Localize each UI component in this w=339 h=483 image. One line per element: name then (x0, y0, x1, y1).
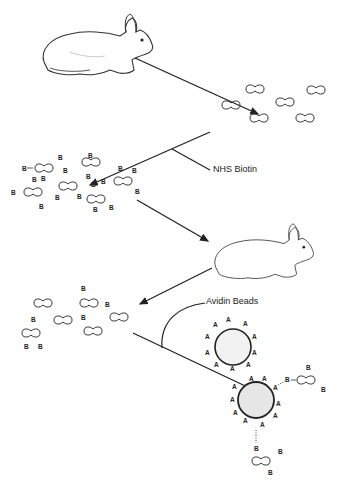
svg-text:A: A (230, 396, 235, 403)
svg-text:A: A (246, 361, 251, 368)
svg-text:A: A (232, 383, 237, 390)
svg-text:B: B (321, 386, 326, 393)
svg-text:B: B (81, 314, 86, 321)
svg-text:B: B (55, 194, 60, 201)
svg-text:B: B (81, 285, 86, 292)
avidin-beads-label: Avidin Beads (206, 296, 258, 306)
svg-text:B: B (88, 152, 93, 159)
svg-text:B: B (254, 445, 259, 452)
svg-text:A: A (230, 365, 235, 372)
svg-text:A: A (252, 349, 257, 356)
svg-text:A: A (214, 361, 219, 368)
svg-text:B: B (31, 316, 36, 323)
svg-text:A: A (243, 417, 248, 424)
nhs-biotin-label: NHS Biotin (213, 164, 257, 174)
avidin-bead-bound: AAA AAA AAAA B BB B BB (230, 364, 326, 476)
svg-text:B: B (105, 301, 110, 308)
svg-text:A: A (243, 320, 248, 327)
svg-text:A: A (233, 409, 238, 416)
svg-text:B: B (63, 167, 68, 174)
svg-text:B: B (11, 189, 16, 196)
arrow-3 (137, 200, 208, 241)
svg-text:B: B (77, 193, 82, 200)
nhs-biotin-branch (172, 149, 210, 170)
rabbit-icon-middle (215, 224, 314, 279)
arrow-4 (140, 268, 212, 304)
svg-text:B: B (285, 376, 290, 383)
svg-text:B: B (306, 364, 311, 371)
svg-text:B: B (41, 175, 46, 182)
avidin-bead-free: AAA AA AA AAA (205, 316, 257, 372)
antibody-group-biotinylated: B BB BB BBB BBB B BBB BBB (11, 152, 140, 213)
svg-text:B: B (135, 188, 140, 195)
svg-text:A: A (260, 421, 265, 428)
svg-text:B: B (39, 203, 44, 210)
svg-text:A: A (205, 333, 210, 340)
svg-text:B: B (58, 154, 63, 161)
svg-text:B: B (132, 167, 137, 174)
svg-text:B: B (109, 204, 114, 211)
svg-text:A: A (273, 384, 278, 391)
svg-text:A: A (273, 412, 278, 419)
avidin-beads-branch (162, 303, 205, 348)
svg-text:B: B (268, 469, 273, 476)
antibody-group-unlabeled (222, 85, 325, 122)
antibody-group-mixed: BBB BBB (22, 285, 128, 350)
svg-text:A: A (249, 375, 254, 382)
svg-text:B: B (32, 176, 37, 183)
svg-text:B: B (93, 206, 98, 213)
arrow-2 (90, 132, 210, 185)
svg-text:B: B (118, 165, 123, 172)
svg-text:B: B (22, 165, 27, 172)
svg-text:B: B (38, 343, 43, 350)
svg-text:B: B (91, 181, 96, 188)
svg-text:B: B (86, 173, 91, 180)
svg-text:B: B (101, 178, 106, 185)
biotin-avidin-diagram: B BB BB BBB BBB B BBB BBB BBB BBB (0, 0, 339, 483)
svg-text:B: B (278, 448, 283, 455)
svg-text:A: A (252, 333, 257, 340)
svg-text:A: A (226, 316, 231, 323)
svg-text:A: A (276, 400, 281, 407)
svg-text:A: A (213, 321, 218, 328)
svg-text:A: A (205, 349, 210, 356)
svg-text:B: B (24, 343, 29, 350)
rabbit-icon-top (43, 14, 153, 75)
svg-text:A: A (262, 375, 267, 382)
